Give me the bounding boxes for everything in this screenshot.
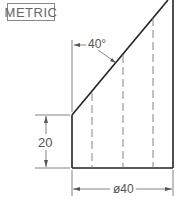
angle-dimension-label: 40° (87, 38, 107, 50)
drawing-canvas (0, 0, 178, 199)
arrow-right-icon (165, 187, 172, 191)
arrow-up-icon (44, 116, 48, 123)
height-dimension-label: 20 (38, 135, 52, 150)
part-outline (72, 0, 173, 168)
metric-badge: METRIC (7, 3, 55, 21)
diameter-dimension-label: ø40 (111, 183, 136, 195)
arrow-icon (74, 43, 80, 47)
arrow-down-icon (44, 160, 48, 167)
arrow-left-icon (73, 187, 80, 191)
